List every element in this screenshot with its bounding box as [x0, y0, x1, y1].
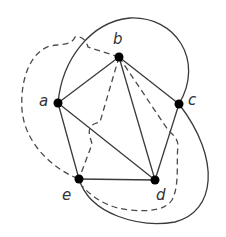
label-c: c — [188, 93, 196, 108]
node-a — [54, 99, 63, 108]
node-d — [151, 176, 160, 185]
node-c — [175, 100, 184, 109]
label-a: a — [39, 94, 48, 109]
label-e: e — [62, 188, 71, 203]
node-e — [75, 175, 84, 184]
graph-diagram: a b c d e — [0, 0, 226, 237]
label-d: d — [156, 188, 166, 203]
node-b — [115, 53, 124, 62]
label-b: b — [113, 32, 123, 47]
